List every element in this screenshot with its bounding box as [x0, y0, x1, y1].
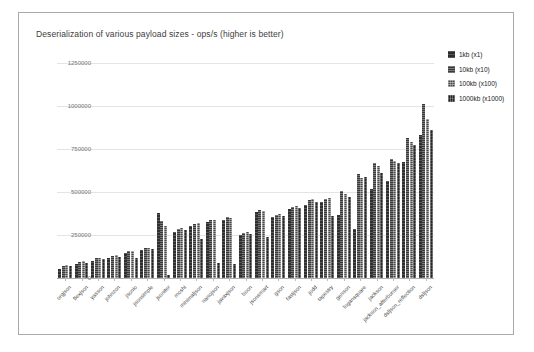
bar-group: [288, 206, 302, 278]
axis-tick: [114, 278, 115, 281]
bar-1000kb: [315, 202, 318, 278]
bar-group: [402, 138, 416, 278]
bar-10kb: [258, 210, 261, 278]
bar-1000kb: [413, 145, 416, 278]
bar-100kb: [180, 228, 183, 278]
bar-1000kb: [167, 275, 170, 278]
legend-label: 100kb (x100): [459, 80, 497, 87]
axis-tick: [147, 278, 148, 281]
legend-item: 1kb (x1): [448, 51, 504, 58]
bar-1kb: [386, 181, 389, 278]
bar-100kb: [246, 232, 249, 278]
bar-1kb: [222, 220, 225, 278]
bar-1kb: [419, 135, 422, 278]
bar-group: [91, 258, 105, 278]
bar-1kb: [140, 250, 143, 278]
bar-10kb: [226, 217, 229, 278]
legend-label: 10kb (x10): [459, 66, 490, 73]
bar-100kb: [278, 214, 281, 278]
bar-1kb: [107, 258, 110, 278]
bar-100kb: [328, 198, 331, 278]
bar-1kb: [189, 226, 192, 278]
bar-1000kb: [184, 230, 187, 278]
bar-group: [419, 104, 433, 278]
bar-100kb: [197, 223, 200, 278]
legend-label: 1000kb (x1000): [459, 95, 504, 102]
bar-1kb: [91, 261, 94, 278]
bar-group: [75, 261, 89, 278]
bar-1kb: [320, 202, 323, 278]
bar-group: [124, 251, 138, 278]
bar-10kb: [291, 207, 294, 278]
axis-tick: [344, 278, 345, 281]
bar-10kb: [357, 174, 360, 278]
axis-tick: [213, 278, 214, 281]
bar-1000kb: [118, 257, 121, 278]
axis-tick: [82, 278, 83, 281]
bar-10kb: [209, 220, 212, 278]
bar-1000kb: [266, 237, 269, 278]
axis-tick: [360, 278, 361, 281]
bar-group: [140, 248, 154, 278]
bar-10kb: [95, 258, 98, 278]
bar-100kb: [229, 218, 232, 278]
bar-1000kb: [348, 197, 351, 278]
bar-10kb: [111, 256, 114, 278]
y-tick-label: 500000: [51, 189, 91, 195]
bar-1000kb: [364, 177, 367, 278]
legend-swatch: [448, 80, 455, 87]
bar-group: [189, 223, 203, 278]
bar-10kb: [422, 104, 425, 278]
bar-100kb: [311, 199, 314, 278]
legend-swatch: [448, 51, 455, 58]
bar-1kb: [370, 189, 373, 278]
bar-group: [304, 199, 318, 278]
bar-group: [222, 217, 236, 278]
bar-1kb: [304, 205, 307, 278]
bar-1000kb: [102, 259, 105, 278]
bar-1000kb: [282, 216, 285, 278]
gridline: [57, 106, 434, 107]
axis-tick: [229, 278, 230, 281]
axis-tick: [311, 278, 312, 281]
axis-tick: [278, 278, 279, 281]
bar-100kb: [65, 265, 68, 278]
axis-tick: [327, 278, 328, 281]
chart-title: Deserialization of various payload sizes…: [36, 29, 284, 39]
axis-tick: [295, 278, 296, 281]
axis-tick: [180, 278, 181, 281]
bar-group: [370, 163, 384, 278]
bar-group: [337, 191, 351, 278]
axis-tick: [65, 278, 66, 281]
bar-1kb: [58, 269, 61, 278]
bar-group: [271, 214, 285, 278]
bar-100kb: [377, 166, 380, 278]
bar-1kb: [124, 253, 127, 278]
bar-1000kb: [151, 249, 154, 278]
bar-1000kb: [430, 130, 433, 278]
gridline: [57, 63, 434, 64]
bar-10kb: [160, 221, 163, 278]
bar-10kb: [308, 200, 311, 278]
bar-1000kb: [200, 239, 203, 278]
bar-group: [206, 220, 220, 278]
bar-1kb: [157, 213, 160, 278]
bar-1000kb: [331, 216, 334, 278]
bar-1kb: [353, 229, 356, 278]
bar-100kb: [82, 261, 85, 278]
bar-100kb: [295, 206, 298, 278]
legend-item: 100kb (x100): [448, 80, 504, 87]
bar-1000kb: [135, 258, 138, 278]
bar-1kb: [402, 162, 405, 278]
bar-1000kb: [85, 263, 88, 278]
bar-10kb: [373, 163, 376, 278]
bar-group: [386, 159, 400, 278]
plot-area: 025000050000075000010000001250000orgjson…: [57, 63, 434, 278]
bar-100kb: [131, 251, 134, 278]
bar-10kb: [78, 262, 81, 278]
bar-1kb: [288, 209, 291, 278]
axis-tick: [246, 278, 247, 281]
bar-100kb: [147, 248, 150, 278]
bar-1000kb: [217, 263, 220, 278]
axis-tick: [377, 278, 378, 281]
